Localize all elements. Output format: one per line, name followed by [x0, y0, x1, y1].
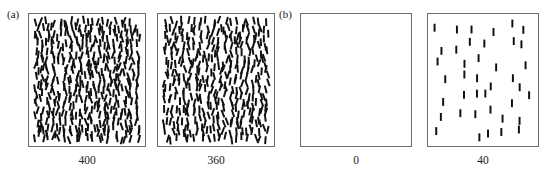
texture-element: [245, 128, 248, 136]
texture-element: [229, 91, 233, 99]
texture-element: [33, 134, 36, 142]
texture-element: [56, 76, 59, 84]
texture-element: [124, 119, 127, 127]
texture-element: [263, 35, 265, 43]
texture-element: [183, 65, 188, 73]
texture-element: [217, 62, 220, 70]
texture-element: [64, 118, 66, 126]
texture-element: [80, 67, 83, 75]
texture-element: [117, 25, 120, 33]
texture-element: [214, 50, 217, 58]
texture-element: [98, 85, 100, 93]
texture-element: [109, 27, 111, 35]
texture-element: [125, 96, 127, 104]
texture-element: [252, 40, 256, 48]
texture-element: [252, 26, 256, 34]
texture-element: [258, 128, 260, 136]
texture-element: [169, 83, 172, 91]
texture-element: [235, 17, 239, 25]
texture-element: [119, 122, 123, 130]
texture-element: [197, 61, 201, 69]
texture-element: [212, 123, 216, 131]
texture-element: [230, 119, 233, 127]
texture-element: [459, 109, 461, 117]
texture-element: [209, 125, 212, 133]
stimulus-canvas: [158, 14, 274, 146]
texture-element: [107, 129, 110, 137]
texture-element: [242, 24, 244, 32]
texture-element: [129, 79, 132, 87]
panel-caption: 40: [427, 155, 539, 167]
texture-element: [490, 82, 492, 90]
texture-element: [115, 94, 118, 102]
texture-element: [63, 96, 67, 104]
texture-element: [257, 17, 260, 25]
texture-element: [192, 42, 194, 50]
texture-element: [46, 124, 49, 132]
texture-element: [127, 49, 129, 57]
stimulus-canvas: [428, 14, 538, 146]
texture-element: [444, 75, 446, 83]
texture-element: [76, 36, 79, 44]
texture-element: [216, 28, 220, 36]
texture-element: [502, 115, 504, 123]
stimulus-panel: [28, 13, 146, 147]
texture-element: [254, 134, 258, 142]
texture-element: [162, 119, 165, 127]
texture-element: [115, 108, 117, 116]
texture-element: [110, 106, 113, 114]
texture-element: [183, 124, 187, 132]
texture-element: [202, 134, 204, 142]
texture-element: [38, 30, 42, 38]
texture-element: [41, 88, 43, 96]
texture-element: [102, 55, 105, 63]
texture-element: [229, 18, 232, 26]
texture-element: [246, 67, 250, 75]
texture-element: [440, 47, 442, 55]
texture-element: [99, 120, 102, 128]
texture-element: [230, 136, 233, 144]
texture-element: [84, 71, 87, 79]
texture-element: [204, 16, 207, 24]
texture-element: [211, 54, 213, 62]
panel-caption: 400: [28, 155, 146, 167]
texture-element: [85, 85, 87, 93]
texture-element: [228, 130, 232, 138]
texture-element: [176, 116, 180, 124]
texture-element: [216, 102, 218, 110]
texture-element: [44, 16, 47, 24]
texture-element: [519, 83, 521, 91]
texture-element: [201, 75, 204, 83]
texture-element: [210, 29, 214, 37]
texture-element: [487, 130, 489, 138]
texture-element: [117, 88, 121, 96]
texture-element: [206, 42, 211, 50]
texture-element: [220, 24, 223, 32]
texture-element: [476, 74, 478, 82]
texture-element: [235, 127, 238, 135]
texture-element: [34, 18, 38, 26]
texture-element: [478, 133, 480, 141]
texture-element: [528, 91, 530, 99]
texture-element: [136, 73, 140, 81]
texture-element: [240, 132, 242, 140]
texture-element: [211, 37, 215, 45]
texture-element: [206, 31, 210, 39]
texture-element: [64, 111, 67, 119]
texture-element: [71, 44, 73, 52]
texture-element: [247, 93, 250, 101]
texture-element: [50, 124, 54, 132]
texture-element: [103, 42, 105, 50]
texture-element: [230, 42, 234, 50]
texture-element: [79, 76, 81, 84]
texture-element: [119, 68, 123, 76]
texture-element: [55, 108, 60, 116]
texture-element: [42, 134, 46, 142]
texture-element: [207, 135, 211, 143]
texture-element: [512, 74, 514, 82]
texture-element: [46, 47, 49, 55]
texture-element: [264, 85, 268, 93]
texture-element: [267, 30, 269, 38]
texture-element: [72, 30, 76, 38]
texture-element: [75, 84, 77, 92]
